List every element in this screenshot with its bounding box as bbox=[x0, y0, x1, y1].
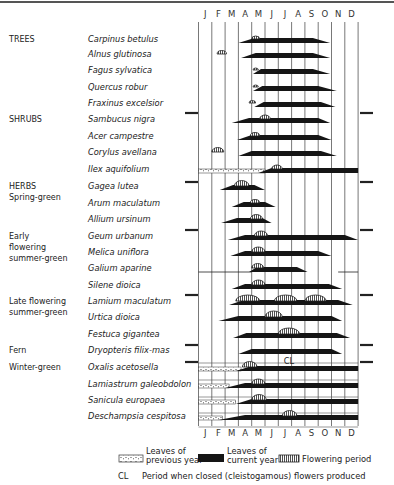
species-label: Quercus robur bbox=[88, 82, 148, 92]
species-label: Corylus avellana bbox=[88, 147, 157, 157]
species-label: Galium aparine bbox=[88, 263, 152, 273]
flowering-period bbox=[254, 231, 267, 236]
current-year-leaves bbox=[238, 349, 342, 354]
flowering-period bbox=[250, 133, 259, 136]
month-label-top: M bbox=[255, 9, 262, 19]
species-label: Sanicula europaea bbox=[88, 395, 165, 405]
species-label: Allium ursinum bbox=[87, 214, 150, 224]
previous-year-leaves bbox=[199, 400, 236, 404]
month-label-top: M bbox=[228, 9, 235, 19]
flowering-period bbox=[265, 311, 282, 317]
group-label: flowering bbox=[9, 243, 46, 252]
cl-marker: CL bbox=[284, 356, 295, 366]
group-label: summer-green bbox=[9, 254, 68, 263]
legend-current-swatch bbox=[198, 454, 224, 462]
species-label: Silene dioica bbox=[88, 280, 141, 290]
current-year-leaves bbox=[225, 383, 358, 388]
species-label: Alnus glutinosa bbox=[87, 49, 152, 59]
month-label-bottom: S bbox=[309, 428, 314, 438]
month-label-bottom: J bbox=[283, 428, 287, 438]
species-label: Oxalis acetosella bbox=[88, 362, 158, 372]
flowering-period bbox=[253, 68, 258, 70]
flowering-period bbox=[278, 328, 299, 334]
group-label: SHRUBS bbox=[9, 115, 42, 124]
month-label-bottom: J bbox=[203, 428, 207, 438]
species-label: Carpinus betulus bbox=[88, 34, 159, 44]
group-label: summer-green bbox=[9, 308, 68, 317]
flowering-period bbox=[212, 148, 224, 152]
group-label: Winter-green bbox=[9, 363, 61, 372]
month-label-bottom: O bbox=[321, 428, 328, 438]
flowering-period bbox=[252, 247, 265, 252]
flowering-period bbox=[282, 411, 297, 416]
species-label: Deschampsia cespitosa bbox=[88, 411, 186, 421]
previous-year-leaves bbox=[199, 169, 266, 173]
month-label-top: J bbox=[203, 9, 207, 19]
flowering-period bbox=[236, 295, 260, 301]
species-label: Acer campestre bbox=[87, 131, 154, 141]
month-label-top: A bbox=[295, 9, 301, 19]
flowering-period bbox=[252, 264, 264, 268]
current-year-leaves bbox=[232, 284, 342, 289]
species-label: Gagea lutea bbox=[88, 181, 139, 191]
month-label-top: A bbox=[242, 9, 248, 19]
species-label: Urtica dioica bbox=[88, 312, 140, 322]
species-label: Fagus sylvatica bbox=[88, 65, 152, 75]
legend-current-label: current year bbox=[227, 455, 279, 465]
flowering-period bbox=[252, 395, 267, 400]
current-year-leaves bbox=[228, 235, 358, 240]
month-label-top: F bbox=[216, 9, 221, 19]
month-label-bottom: M bbox=[255, 428, 262, 438]
current-year-leaves bbox=[221, 218, 272, 223]
flowering-period bbox=[305, 295, 326, 301]
flowering-period bbox=[250, 200, 259, 203]
current-year-leaves bbox=[241, 53, 330, 58]
species-label: Lamium maculatum bbox=[88, 296, 171, 306]
month-label-top: J bbox=[269, 9, 273, 19]
legend-flowering-swatch bbox=[279, 455, 299, 462]
month-label-bottom: M bbox=[228, 428, 235, 438]
species-label: Sambucus nigra bbox=[88, 114, 155, 124]
group-label: HERBS bbox=[9, 182, 36, 191]
flowering-period bbox=[253, 85, 258, 87]
month-label-bottom: D bbox=[348, 428, 355, 438]
species-label: Fraxinus excelsior bbox=[88, 98, 164, 108]
flowering-period bbox=[242, 362, 257, 367]
previous-year-leaves bbox=[199, 416, 223, 420]
species-label: Arum maculatum bbox=[87, 198, 160, 208]
flowering-period bbox=[217, 51, 226, 54]
month-label-bottom: F bbox=[216, 428, 221, 438]
month-label-bottom: N bbox=[335, 428, 341, 438]
group-label: Late flowering bbox=[9, 297, 66, 306]
current-year-leaves bbox=[238, 151, 336, 156]
group-label: Early bbox=[9, 232, 29, 241]
current-year-leaves bbox=[254, 102, 335, 107]
species-label: Geum urbanum bbox=[88, 231, 153, 241]
flowering-period bbox=[252, 36, 260, 39]
flowering-period bbox=[234, 181, 249, 186]
month-label-top: O bbox=[321, 9, 328, 19]
legend-previous-label: previous year bbox=[146, 455, 203, 465]
species-label: Dryopteris filix-mas bbox=[88, 345, 170, 355]
previous-year-leaves bbox=[199, 384, 230, 388]
species-label: Festuca gigantea bbox=[88, 329, 160, 339]
month-label-top: N bbox=[335, 9, 341, 19]
flowering-period bbox=[274, 295, 297, 301]
flowering-period bbox=[252, 280, 265, 285]
month-label-top: S bbox=[309, 9, 314, 19]
current-year-leaves bbox=[253, 86, 337, 91]
flowering-period bbox=[250, 215, 262, 219]
group-label: Spring-green bbox=[9, 193, 61, 202]
current-year-leaves bbox=[232, 118, 330, 123]
legend-cl-abbrev: CL bbox=[118, 471, 129, 481]
phenology-figure: JJFFMMAAMMJJJJAASSOONNDDTREESCarpinus be… bbox=[0, 0, 394, 485]
legend-cl-text: Period when closed (cleistogamous) flowe… bbox=[142, 471, 366, 481]
current-year-leaves bbox=[230, 251, 331, 256]
group-label: TREES bbox=[8, 35, 35, 44]
month-label-top: J bbox=[283, 9, 287, 19]
month-label-bottom: A bbox=[295, 428, 301, 438]
legend-previous-swatch bbox=[119, 455, 143, 462]
flowering-period bbox=[272, 165, 283, 169]
legend-flowering-label: Flowering period bbox=[302, 454, 371, 464]
species-label: Lamiastrum galeobdolon bbox=[88, 379, 191, 389]
